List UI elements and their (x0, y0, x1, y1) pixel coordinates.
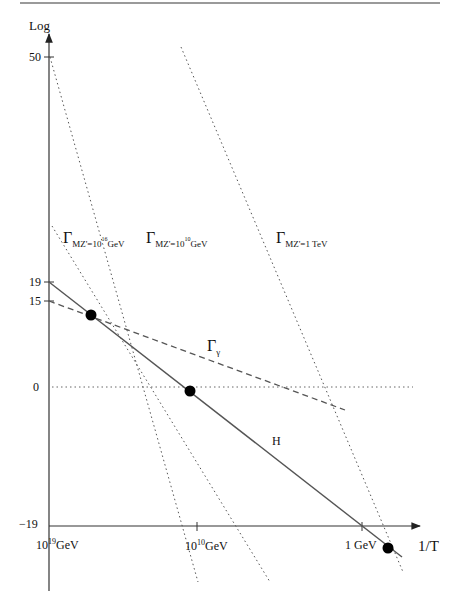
gamma-mz16-line (50, 57, 198, 582)
h-label: H (272, 435, 281, 447)
marker-h-end (383, 543, 394, 554)
x-tick-1e10: 1010GeV (185, 539, 228, 552)
y-tick-19: 19 (29, 276, 41, 288)
plot-area (0, 0, 460, 597)
y-tick-15: 15 (29, 295, 41, 307)
y-tick-0: 0 (33, 381, 39, 393)
marker-h-zero (185, 386, 196, 397)
x-axis-label: 1/T (418, 539, 439, 554)
gamma-mz10-label: ΓMZ'=1010GeV (146, 230, 207, 249)
marker-h-gamma (86, 310, 97, 321)
gamma-gamma-label: Γγ (207, 338, 220, 357)
gamma-mz1tev-label: ΓMZ'=1 TeV (276, 230, 327, 249)
gamma-mz16-label: ΓMZ'=1016GeV (63, 230, 124, 249)
h-line (49, 282, 402, 557)
y-tick-50: 50 (29, 51, 41, 63)
x-tick-1gev: 1 GeV (345, 539, 377, 551)
x-tick-1e19: 1019GeV (36, 538, 79, 551)
gamma-mz1tev-line (181, 47, 403, 572)
y-axis-label: Log (29, 19, 50, 32)
y-tick-minus19: −19 (19, 518, 38, 530)
gamma-mz10-line (52, 226, 270, 582)
